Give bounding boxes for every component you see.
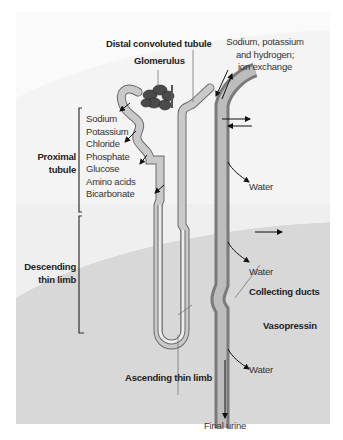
label-water-3: Water <box>249 364 273 377</box>
reabsorbed-substance-list: Sodium Potassium Chloride Phosphate Gluc… <box>86 113 136 201</box>
substance-item: Bicarbonate <box>86 188 136 201</box>
ion-exchange-line-3: ion exchange <box>215 61 315 74</box>
descending-line-1: Descending <box>14 261 76 274</box>
label-descending-thin-limb: Descending thin limb <box>14 261 76 286</box>
label-vasopressin: Vasopressin <box>263 320 317 333</box>
substance-item: Chloride <box>86 138 136 151</box>
substance-item: Glucose <box>86 163 136 176</box>
label-ion-exchange: Sodium, potassium and hydrogen; ion exch… <box>215 36 315 74</box>
label-water-2: Water <box>249 266 273 279</box>
substance-item: Sodium <box>86 113 136 126</box>
ion-exchange-line-1: Sodium, potassium <box>215 36 315 49</box>
substance-item: Amino acids <box>86 176 136 189</box>
descending-line-2: thin limb <box>14 274 76 287</box>
nephron-diagram: Distal convoluted tubule Glomerulus Sodi… <box>0 0 343 440</box>
label-final-urine: Final urine <box>204 420 246 433</box>
label-water-1: Water <box>249 181 273 194</box>
proximal-line-1: Proximal <box>30 151 76 164</box>
ion-exchange-line-2: and hydrogen; <box>215 49 315 62</box>
label-distal-convoluted-tubule: Distal convoluted tubule <box>106 38 212 51</box>
substance-item: Phosphate <box>86 151 136 164</box>
label-glomerulus: Glomerulus <box>134 55 185 68</box>
label-proximal-tubule: Proximal tubule <box>30 151 76 176</box>
label-collecting-ducts: Collecting ducts <box>249 286 320 299</box>
label-ascending-thin-limb: Ascending thin limb <box>125 372 212 385</box>
substance-item: Potassium <box>86 126 136 139</box>
proximal-line-2: tubule <box>30 164 76 177</box>
